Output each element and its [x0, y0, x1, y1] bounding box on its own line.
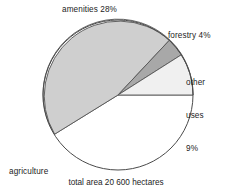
slice-label-agriculture: agriculture 59%	[9, 144, 48, 196]
slice-label-other-uses-line2: uses	[186, 110, 205, 121]
slice-label-amenities: amenities 28%	[62, 5, 117, 15]
slice-label-forestry: forestry 4%	[168, 31, 211, 41]
slice-label-agriculture-line1: agriculture	[9, 166, 48, 177]
slice-label-other-uses: other uses 9%	[186, 55, 205, 176]
slice-label-other-uses-line3: 9%	[186, 143, 205, 154]
pie-chart: amenities 28% forestry 4% other uses 9% …	[0, 0, 232, 196]
slice-label-other-uses-line1: other	[186, 77, 205, 88]
chart-caption: total area 20 600 hectares	[0, 178, 232, 187]
